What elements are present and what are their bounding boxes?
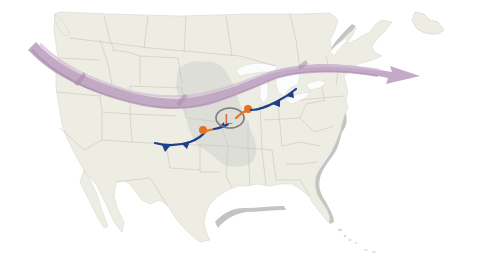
weather-map: L [0, 0, 477, 266]
low-pressure-symbol: L [225, 110, 233, 127]
warm-front-bubble [199, 126, 207, 134]
